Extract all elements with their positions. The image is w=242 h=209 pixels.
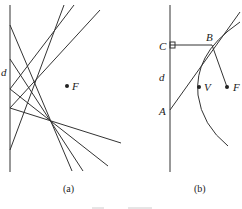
point-a-label: A xyxy=(158,105,166,117)
line-a2 xyxy=(10,59,83,171)
panel-b: C B d A V F (b) xyxy=(158,5,240,195)
line-a4 xyxy=(10,108,121,143)
point-c-label: C xyxy=(159,40,167,52)
directrix-label-b: d xyxy=(159,71,165,83)
line-a3 xyxy=(10,89,108,166)
focus-label-a: F xyxy=(71,80,79,92)
focus-label-b: F xyxy=(232,81,240,93)
line-a7 xyxy=(10,10,100,108)
vertex-point xyxy=(197,85,201,89)
point-b-label: B xyxy=(206,31,213,43)
directrix-label-a: d xyxy=(1,66,7,78)
figure: d F (a) C B d A V F (b) xyxy=(0,0,242,209)
line-a5 xyxy=(10,5,64,150)
caption-a: (a) xyxy=(63,183,74,195)
focus-point-b xyxy=(225,85,229,89)
tangent-line xyxy=(170,12,240,110)
caption-b: (b) xyxy=(194,183,206,195)
segment-bf xyxy=(212,45,227,87)
focus-point-a xyxy=(65,84,69,88)
vertex-label: V xyxy=(204,81,212,93)
panel-a: d F (a) xyxy=(1,5,121,195)
